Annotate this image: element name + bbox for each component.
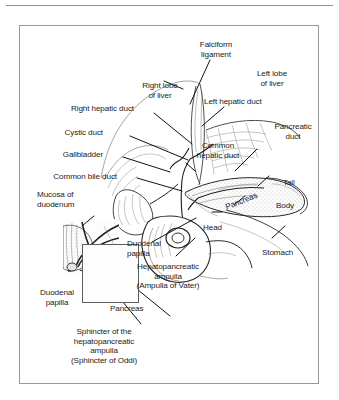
label-hepatopancreatic-ampulla: Hepatopancreatic ampulla (Ampulla of Vat… (119, 262, 217, 291)
label-tail: Tail (283, 178, 295, 188)
page-root: Falciform ligament Right lobe of liver L… (0, 0, 339, 400)
top-horizontal-rule (6, 5, 333, 6)
label-mucosa-of-duodenum: Mucosa of duodenum (37, 190, 74, 209)
label-stomach: Stomach (262, 248, 293, 258)
label-body: Body (276, 201, 294, 211)
label-common-hepatic-duct: Common hepatic duct (180, 141, 256, 160)
label-duodenal-papilla-right: Duodenal papilla (127, 239, 161, 258)
label-sphincter-of-oddi: Sphincter of the hepatopancreatic ampull… (36, 327, 172, 365)
label-gallbladder: Gallbladder (36, 150, 103, 160)
label-left-lobe-of-liver: Left lobe of liver (243, 69, 301, 88)
stomach-outline (220, 210, 308, 266)
label-right-hepatic-duct: Right hepatic duct (36, 104, 134, 114)
label-head: Head (203, 223, 222, 233)
label-common-bile-duct: Common bile duct (24, 172, 117, 182)
label-pancreas-bottom: Pancreas (110, 304, 143, 314)
label-pancreatic-duct: Pancreatic duct (265, 122, 321, 141)
label-left-hepatic-duct: Left hepatic duct (204, 97, 262, 107)
label-duodenal-papilla-left: Duodenal papilla (20, 288, 94, 307)
label-cystic-duct: Cystic duct (36, 128, 103, 138)
label-falciform-ligament: Falciform ligament (185, 40, 247, 59)
label-right-lobe-of-liver: Right lobe of liver (129, 81, 191, 100)
